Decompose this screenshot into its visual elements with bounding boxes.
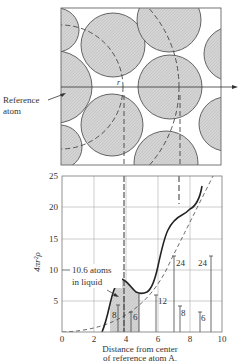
rdf-chart: 8 6 12 24 8 24 6 10.6 atoms in liquid 5 …	[32, 171, 227, 363]
y-tick-25: 25	[49, 171, 59, 181]
figure: r Reference atom	[0, 0, 239, 363]
bar-label-8: 8	[112, 310, 117, 320]
bar-label-6: 6	[133, 312, 138, 322]
y-tick-20: 20	[49, 202, 59, 212]
reference-label: Reference	[3, 95, 39, 105]
atom-packing-diagram: r Reference atom	[0, 0, 239, 205]
x-tick-0: 0	[60, 334, 65, 344]
y-tick-5: 5	[54, 296, 59, 306]
x-tick-6: 6	[156, 334, 161, 344]
x-tick-2: 2	[92, 334, 97, 344]
reference-label-2: atom	[3, 106, 21, 116]
bar-label-12: 12	[158, 296, 167, 306]
y-tick-10: 10	[49, 265, 59, 275]
bar-label-6b: 6	[201, 313, 206, 323]
bar-label-24b: 24	[198, 258, 208, 268]
y-axis-label: 4πr²ρ	[32, 252, 42, 272]
annotation-line2: in liquid	[72, 277, 103, 287]
bar-label-8b: 8	[181, 308, 186, 318]
x-tick-4: 4	[124, 334, 129, 344]
y-tick-15: 15	[49, 234, 59, 244]
x-tick-10: 10	[218, 334, 228, 344]
x-tick-8: 8	[188, 334, 193, 344]
annotation-line1: 10.6 atoms	[72, 265, 112, 275]
x-axis-label-2: of reference atom A.	[103, 353, 177, 363]
bar-label-24a: 24	[176, 258, 186, 268]
